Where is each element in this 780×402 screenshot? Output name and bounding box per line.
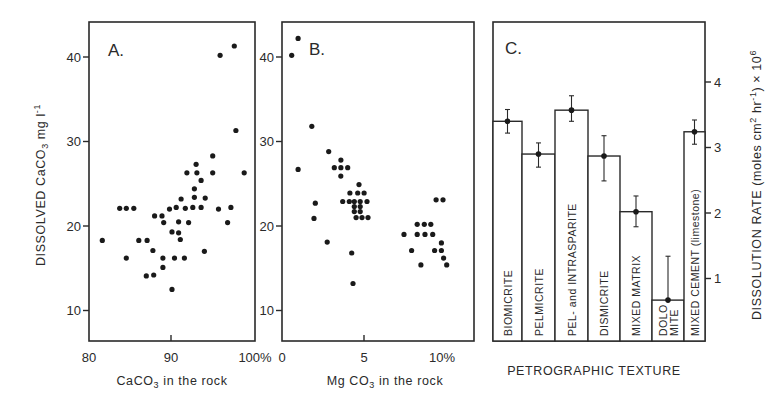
data-point: [179, 196, 184, 201]
y-tick-label: 40: [67, 50, 81, 65]
data-point: [313, 201, 318, 206]
data-point: [355, 190, 360, 195]
data-point: [232, 43, 237, 48]
data-point: [199, 205, 204, 210]
mean-point: [633, 209, 639, 215]
panel-b-points: [289, 36, 449, 286]
data-point: [358, 199, 363, 204]
data-point: [365, 215, 370, 220]
y-tick-label: 3: [714, 140, 721, 155]
bar-category-label: MITE: [668, 309, 680, 336]
data-point: [430, 232, 435, 237]
data-point: [362, 190, 367, 195]
data-point: [192, 195, 197, 200]
panel-b-y-ticks: 10203040: [260, 50, 282, 319]
data-point: [422, 222, 427, 227]
data-point: [332, 165, 337, 170]
data-point: [352, 204, 357, 209]
data-point: [124, 206, 129, 211]
data-point: [160, 265, 165, 270]
data-point: [131, 206, 136, 211]
data-point: [184, 170, 189, 175]
data-point: [199, 178, 204, 183]
data-point: [161, 220, 166, 225]
data-point: [174, 205, 179, 210]
data-point: [182, 256, 187, 261]
data-point: [152, 213, 157, 218]
data-point: [151, 272, 156, 277]
data-point: [169, 229, 174, 234]
mean-point: [569, 107, 575, 113]
data-point: [325, 240, 330, 245]
data-point: [150, 248, 155, 253]
data-point: [160, 256, 165, 261]
data-point: [210, 153, 215, 158]
x-tick-label: 80: [82, 350, 96, 365]
panel-a-scatter: A. 10203040 8090100% CaCO3 in the rock: [67, 22, 273, 390]
data-point: [145, 238, 150, 243]
data-point: [358, 204, 363, 209]
bar-category-label: PELMICRITE: [533, 268, 545, 336]
x-tick-label: 0: [278, 350, 285, 365]
y-axis-label-text: DISSOLVED CaCO3 mg l-1: [32, 104, 50, 266]
data-point: [289, 53, 294, 58]
panel-a-x-axis-label: CaCO3 in the rock: [116, 374, 227, 390]
data-point: [401, 232, 406, 237]
data-point: [338, 158, 343, 163]
data-point: [415, 222, 420, 227]
data-point: [190, 205, 195, 210]
panel-a-x-ticks: 8090100%: [82, 335, 272, 365]
data-point: [441, 256, 446, 261]
data-point: [434, 197, 439, 202]
panel-c-x-axis-label: PETROGRAPHIC TEXTURE: [507, 364, 681, 378]
data-point: [176, 230, 181, 235]
data-point: [296, 167, 301, 172]
data-point: [444, 262, 449, 267]
panel-b-x-axis-label: Mg CO3 in the rock: [327, 374, 444, 390]
panel-c-y-axis-label: DISSOLUTION RATE (moles cm2 hr-1) × 106: [748, 50, 764, 320]
bar-group: DOLOMITE: [652, 256, 684, 341]
mean-point: [536, 151, 542, 157]
data-point: [100, 238, 105, 243]
data-point: [176, 219, 181, 224]
data-point: [218, 53, 223, 58]
bar-group: BIOMICRITE: [493, 110, 522, 341]
dissolution-rate-label: DISSOLUTION RATE (moles cm2 hr-1) × 106: [748, 50, 764, 320]
panel-c-bars: BIOMICRITEPELMICRITEPEL- and INTRASPARIT…: [493, 96, 705, 341]
data-point: [440, 197, 445, 202]
data-point: [354, 215, 359, 220]
data-point: [233, 128, 238, 133]
panel-a-label: A.: [108, 41, 124, 60]
y-tick-label: 10: [67, 303, 81, 318]
data-point: [347, 199, 352, 204]
data-point: [225, 220, 230, 225]
data-point: [210, 170, 215, 175]
data-point: [432, 248, 437, 253]
y-tick-label: 40: [260, 50, 274, 65]
data-point: [242, 170, 247, 175]
data-point: [296, 36, 301, 41]
data-point: [350, 281, 355, 286]
data-point: [203, 196, 208, 201]
y-tick-label: 20: [67, 219, 81, 234]
bar-category-label: BIOMICRITE: [502, 270, 514, 336]
y-tick-label: 20: [260, 219, 274, 234]
shared-y-axis-label: DISSOLVED CaCO3 mg l-1: [32, 104, 50, 266]
y-tick-label: 2: [714, 206, 721, 221]
data-point: [422, 232, 427, 237]
data-point: [352, 209, 357, 214]
data-point: [172, 256, 177, 261]
x-tick-label: 5: [360, 350, 367, 365]
y-tick-label: 30: [260, 134, 274, 149]
mean-point: [692, 129, 698, 135]
data-point: [326, 149, 331, 154]
data-point: [183, 206, 188, 211]
y-tick-label: 1: [714, 271, 721, 286]
data-point: [356, 182, 361, 187]
y-tick-label: 30: [67, 134, 81, 149]
bar-category-label: MIXED CEMENT (limestone): [689, 189, 701, 336]
x-tick-label: 100%: [238, 350, 272, 365]
data-point: [347, 190, 352, 195]
figure: DISSOLVED CaCO3 mg l-1 A. 10203040 80901…: [0, 0, 780, 402]
bar-group: MIXED MATRIX: [620, 196, 652, 341]
